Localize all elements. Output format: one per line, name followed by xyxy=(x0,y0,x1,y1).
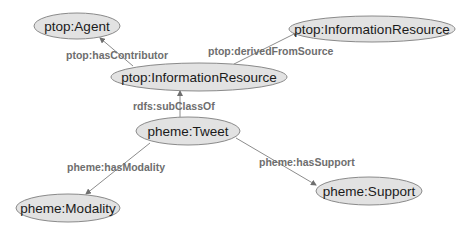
node-pheme-tweet[interactable]: pheme:Tweet xyxy=(136,117,240,145)
edge-label-derived-from-source: ptop:derivedFromSource xyxy=(208,45,334,57)
node-label: pheme:Tweet xyxy=(147,124,228,139)
node-ptop-information-resource-center[interactable]: ptop:InformationResource xyxy=(111,63,287,91)
edge-label-has-support: pheme:hasSupport xyxy=(259,156,355,168)
node-ptop-agent[interactable]: ptop:Agent xyxy=(34,13,120,39)
node-label: ptop:Agent xyxy=(44,19,110,34)
node-label: ptop:InformationResource xyxy=(121,70,276,85)
ontology-diagram: ptop:Agent ptop:InformationResource ptop… xyxy=(0,0,470,229)
node-pheme-modality[interactable]: pheme:Modality xyxy=(16,194,120,222)
edge-label-sub-class-of: rdfs:subClassOf xyxy=(133,100,215,112)
node-label: ptop:InformationResource xyxy=(294,22,449,37)
node-pheme-support[interactable]: pheme:Support xyxy=(316,177,422,205)
edge-label-has-contributor: ptop:hasContributor xyxy=(66,49,168,61)
node-label: pheme:Support xyxy=(323,184,416,199)
node-ptop-information-resource-right[interactable]: ptop:InformationResource xyxy=(289,16,455,42)
node-label: pheme:Modality xyxy=(20,201,116,216)
edge-label-has-modality: pheme:hasModality xyxy=(67,161,165,173)
